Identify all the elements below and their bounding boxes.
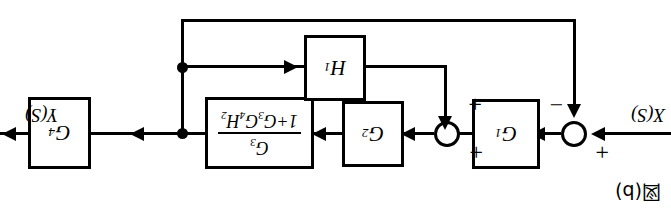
fraction-bar bbox=[218, 132, 301, 134]
input-label: X(S) bbox=[631, 106, 665, 125]
arrowhead-h1-into-sum2 bbox=[439, 116, 453, 130]
fraction-den-tail: H bbox=[227, 111, 240, 131]
arrowhead-output bbox=[2, 128, 16, 142]
sum1-feedback-sign: − bbox=[549, 93, 563, 117]
wire-input-to-sum1 bbox=[603, 132, 671, 135]
block-g2-label: G bbox=[369, 124, 384, 145]
sum1-input-sign: + bbox=[595, 141, 609, 165]
block-g4-subscript: 4 bbox=[48, 127, 55, 140]
arrowhead-outer-into-sum1 bbox=[567, 104, 581, 118]
wire-corner-to-sum2 bbox=[444, 67, 447, 120]
block-h1-label: H bbox=[331, 58, 346, 79]
block-g1-label: G bbox=[502, 124, 517, 145]
arrowhead-into-g4 bbox=[130, 128, 144, 142]
fraction-den-mid: G bbox=[245, 111, 258, 131]
fraction-den-lead: 1+G bbox=[264, 111, 298, 131]
wire-h1-to-corner bbox=[363, 65, 447, 68]
sum2-top-sign: + bbox=[468, 93, 482, 117]
block-closed-loop-fraction: G3 1+G3G4H2 bbox=[205, 97, 314, 169]
sum2-bottom-sign: + bbox=[469, 141, 483, 165]
wire-branch-vertical bbox=[181, 67, 184, 135]
fraction-den-sub2: 4 bbox=[240, 110, 246, 122]
summing-junction-1 bbox=[561, 121, 587, 147]
wire-outer-feedback-up bbox=[181, 21, 184, 68]
arrowhead-into-fraction bbox=[312, 128, 326, 142]
arrowhead-into-h1 bbox=[284, 61, 298, 75]
block-g2: G2 bbox=[342, 101, 404, 167]
figure-caption: 図(b) bbox=[615, 182, 661, 201]
fraction-denominator: 1+G3G4H2 bbox=[216, 109, 303, 131]
fraction: G3 1+G3G4H2 bbox=[216, 109, 303, 156]
output-label: Y(S) bbox=[25, 106, 58, 125]
block-h1: H1 bbox=[304, 35, 366, 101]
block-g2-subscript: 2 bbox=[362, 128, 369, 141]
wire-outer-feedback-down bbox=[573, 21, 576, 108]
fraction-numerator: G3 bbox=[216, 135, 303, 157]
fraction-num-sub: 3 bbox=[250, 137, 256, 149]
block-h1-subscript: 1 bbox=[324, 62, 331, 75]
fraction-den-sub3: 2 bbox=[221, 110, 227, 122]
block-g1-subscript: 1 bbox=[495, 128, 502, 141]
figure-canvas: + − G1 + + G2 G3 1+G3G4H2 bbox=[0, 0, 671, 213]
fraction-num-g: G bbox=[256, 138, 269, 158]
wire-outer-feedback-across bbox=[181, 19, 576, 22]
diagram-rotated-container: + − G1 + + G2 G3 1+G3G4H2 bbox=[0, 0, 671, 213]
fraction-den-sub1: 3 bbox=[258, 110, 264, 122]
